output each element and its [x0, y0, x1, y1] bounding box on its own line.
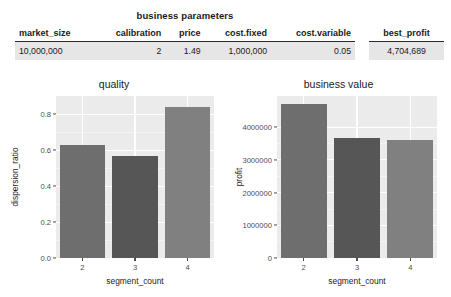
y-axis-title-business-value: profit [234, 168, 244, 187]
x-axis-tick-mark [356, 258, 357, 261]
plot-panel-quality [56, 96, 214, 258]
chart-title-quality: quality [2, 78, 226, 90]
y-axis-tick-mark [53, 257, 56, 258]
y-axis-tick-mark [274, 127, 277, 128]
bar-segment-4 [165, 107, 210, 258]
charts-area: quality dispersion_ratio segment_count 0… [0, 74, 451, 297]
cell-cost-variable: 0.05 [271, 42, 355, 61]
column-header-best-profit: best_profit [369, 26, 444, 42]
column-header-cost-fixed: cost.fixed [205, 26, 272, 42]
y-axis-tick-mark [53, 113, 56, 114]
x-axis-tick-mark [303, 258, 304, 261]
y-axis-tick-label: 0.8 [40, 110, 51, 119]
business-parameters-table: market_size calibration price cost.fixed… [15, 26, 355, 60]
business-parameters-section: business parameters market_size calibrat… [0, 0, 451, 74]
y-axis-tick-label: 0 [268, 254, 272, 263]
y-axis-tick-label: 1000000 [242, 221, 272, 230]
x-axis-title-business-value: segment_count [277, 276, 437, 286]
chart-title-business-value: business value [226, 78, 451, 90]
bar-segment-2 [281, 104, 327, 258]
table-row: 4,704,689 [369, 42, 444, 61]
y-axis-tick-mark [274, 225, 277, 226]
y-axis-title-quality: dispersion_ratio [10, 147, 20, 206]
y-axis-tick-mark [53, 149, 56, 150]
cell-market-size: 10,000,000 [15, 42, 94, 61]
x-axis-tick-mark [82, 258, 83, 261]
bar-segment-3 [112, 156, 157, 258]
cell-price: 1.49 [165, 42, 204, 61]
bar-segment-2 [60, 145, 105, 258]
cell-calibration: 2 [94, 42, 165, 61]
bar-segment-3 [334, 138, 380, 258]
column-header-cost-variable: cost.variable [271, 26, 355, 42]
column-header-calibration: calibration [94, 26, 165, 42]
x-axis-tick-mark [134, 258, 135, 261]
x-axis-title-quality: segment_count [56, 276, 214, 286]
x-axis-tick-label: 3 [133, 263, 137, 272]
column-header-price: price [165, 26, 204, 42]
chart-quality: quality dispersion_ratio segment_count 0… [2, 74, 226, 297]
x-axis-tick-mark [187, 258, 188, 261]
y-axis-tick-label: 0.4 [40, 182, 51, 191]
x-axis-tick-label: 2 [80, 263, 84, 272]
best-profit-table: best_profit 4,704,689 [369, 26, 444, 60]
cell-cost-fixed: 1,000,000 [205, 42, 272, 61]
table-header-row: best_profit [369, 26, 444, 42]
x-axis-tick-mark [410, 258, 411, 261]
bar-segment-4 [387, 140, 433, 258]
x-axis-tick-label: 4 [186, 263, 190, 272]
y-axis-tick-label: 2000000 [242, 188, 272, 197]
x-axis-tick-label: 4 [408, 263, 412, 272]
y-axis-tick-label: 3000000 [242, 155, 272, 164]
y-axis-tick-label: 0.0 [40, 254, 51, 263]
y-axis-tick-mark [274, 192, 277, 193]
y-axis-tick-label: 0.2 [40, 218, 51, 227]
plot-panel-business-value [277, 96, 437, 258]
y-axis-tick-mark [53, 221, 56, 222]
y-axis-tick-mark [274, 159, 277, 160]
y-axis-tick-mark [53, 185, 56, 186]
y-axis-tick-mark [274, 257, 277, 258]
chart-business-value: business value profit segment_count 0100… [226, 74, 451, 297]
x-axis-tick-label: 3 [355, 263, 359, 272]
table-row: 10,000,000 2 1.49 1,000,000 0.05 [15, 42, 355, 61]
y-axis-tick-label: 0.6 [40, 146, 51, 155]
cell-best-profit: 4,704,689 [369, 42, 444, 61]
table-title: business parameters [15, 10, 355, 21]
column-header-market-size: market_size [15, 26, 94, 42]
table-header-row: market_size calibration price cost.fixed… [15, 26, 355, 42]
y-axis-tick-label: 4000000 [242, 123, 272, 132]
x-axis-tick-label: 2 [302, 263, 306, 272]
